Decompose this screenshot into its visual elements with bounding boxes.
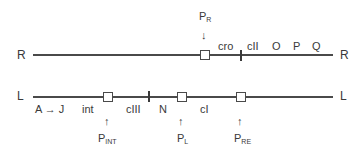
- gene-cro: cro: [218, 41, 233, 52]
- promoter-pr-label: PR: [199, 11, 211, 25]
- down-arrow-icon: ↓: [201, 30, 207, 41]
- gene-cII: cII: [247, 41, 259, 52]
- l-strand-left-label: L: [17, 90, 24, 102]
- gene-cI: cI: [200, 104, 209, 115]
- l-strand-right-label: L: [340, 90, 347, 102]
- up-arrow-icon: ↑: [178, 116, 184, 127]
- promoter-pl-label: PL: [177, 133, 188, 147]
- r-strand-right-label: R: [340, 49, 349, 61]
- gene-A-to-J: A → J: [35, 104, 64, 115]
- up-arrow-icon: ↑: [237, 116, 243, 127]
- gene-Q: Q: [312, 41, 321, 52]
- gene-N: N: [159, 104, 167, 115]
- r-strand-left-label: R: [17, 49, 26, 61]
- promoter-pre-box: [236, 92, 246, 102]
- gene-boundary-tick: [148, 91, 150, 102]
- r-strand-line: [33, 54, 333, 56]
- promoter-pint-label: PINT: [98, 133, 117, 147]
- promoter-pr-box: [200, 50, 210, 60]
- gene-int: int: [82, 104, 94, 115]
- promoter-pl-box: [177, 92, 187, 102]
- gene-P: P: [293, 41, 300, 52]
- gene-O: O: [272, 41, 281, 52]
- promoter-pint-box: [103, 92, 113, 102]
- gene-boundary-tick: [240, 50, 242, 61]
- up-arrow-icon: ↑: [104, 116, 110, 127]
- promoter-pre-label: PRE: [234, 133, 251, 147]
- gene-cIII: cIII: [126, 104, 141, 115]
